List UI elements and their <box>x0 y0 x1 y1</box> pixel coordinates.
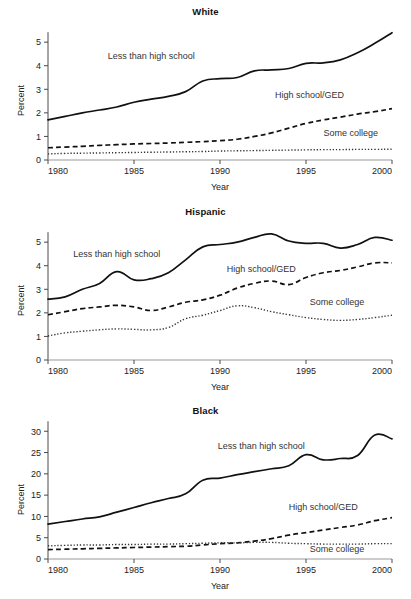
y-tick-label: 0 <box>36 554 41 564</box>
chart-panel-hispanic: Hispanic01234519801985199019952000Less t… <box>0 200 411 400</box>
plot-area: 01234519801985199019952000Less than high… <box>0 200 411 400</box>
y-tick-label: 2 <box>36 308 41 318</box>
series-line-solid <box>48 33 392 120</box>
y-axis-title: Percent <box>16 285 26 316</box>
y-tick-label: 25 <box>31 448 41 458</box>
series-line-dashed <box>48 262 392 314</box>
x-axis-title: Year <box>0 581 392 591</box>
y-tick-label: 15 <box>31 491 41 501</box>
series-annotation: High school/GED <box>289 502 359 512</box>
y-tick-label: 2 <box>36 108 41 118</box>
x-tick-label: 1990 <box>210 166 230 176</box>
y-tick-label: 5 <box>36 237 41 247</box>
plot-area: 05101520253019801985199019952000Less tha… <box>0 399 411 599</box>
x-axis-title: Year <box>0 382 392 392</box>
figure-root: White01234519801985199019952000Less than… <box>0 0 411 599</box>
x-tick-label: 1990 <box>210 565 230 575</box>
chart-panel-white: White01234519801985199019952000Less than… <box>0 0 411 200</box>
x-tick-label: 1985 <box>124 166 144 176</box>
y-tick-label: 4 <box>36 61 41 71</box>
series-annotation: High school/GED <box>275 90 345 100</box>
y-tick-label: 1 <box>36 132 41 142</box>
x-tick-label: 1995 <box>296 366 316 376</box>
x-tick-label: 1980 <box>48 366 68 376</box>
x-axis-title: Year <box>0 182 392 192</box>
x-tick-label: 2000 <box>372 565 392 575</box>
series-annotation: Some college <box>323 128 378 138</box>
series-annotation: Some college <box>310 296 365 306</box>
x-tick-label: 1995 <box>296 166 316 176</box>
y-tick-label: 5 <box>36 533 41 543</box>
series-annotation: High school/GED <box>227 264 297 274</box>
plot-area: 01234519801985199019952000Less than high… <box>0 0 411 200</box>
y-tick-label: 10 <box>31 512 41 522</box>
chart-panel-black: Black05101520253019801985199019952000Les… <box>0 399 411 599</box>
y-tick-label: 1 <box>36 331 41 341</box>
y-axis-title: Percent <box>16 85 26 116</box>
series-line-dotted <box>48 149 392 154</box>
y-tick-label: 0 <box>36 155 41 165</box>
y-tick-label: 3 <box>36 284 41 294</box>
x-tick-label: 1980 <box>48 565 68 575</box>
x-tick-label: 1990 <box>210 366 230 376</box>
x-tick-label: 2000 <box>372 166 392 176</box>
series-annotation: Less than high school <box>108 51 195 61</box>
series-annotation: Some college <box>310 545 365 555</box>
x-tick-label: 1995 <box>296 565 316 575</box>
y-tick-label: 3 <box>36 85 41 95</box>
x-tick-label: 1980 <box>48 166 68 176</box>
y-tick-label: 20 <box>31 469 41 479</box>
x-tick-label: 2000 <box>372 366 392 376</box>
series-annotation: Less than high school <box>218 441 305 451</box>
x-tick-label: 1985 <box>124 366 144 376</box>
series-line-dotted <box>48 305 392 335</box>
series-annotation: Less than high school <box>73 249 160 259</box>
y-tick-label: 0 <box>36 355 41 365</box>
series-line-solid <box>48 233 392 298</box>
y-tick-label: 30 <box>31 427 41 437</box>
y-tick-label: 4 <box>36 261 41 271</box>
y-axis-title: Percent <box>16 484 26 515</box>
x-tick-label: 1985 <box>124 565 144 575</box>
y-tick-label: 5 <box>36 37 41 47</box>
